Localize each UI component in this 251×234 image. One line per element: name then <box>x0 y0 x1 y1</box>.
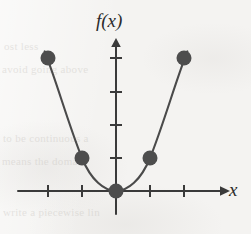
parabola-plot <box>0 0 251 234</box>
data-point-marker <box>143 151 158 166</box>
data-point-marker <box>109 184 124 199</box>
data-point-marker <box>41 51 56 66</box>
data-point-marker <box>177 51 192 66</box>
graph-figure: ost less avoid going above to be continu… <box>0 0 251 234</box>
x-axis-label: x <box>229 179 237 201</box>
y-axis-label: f(x) <box>96 10 122 32</box>
y-axis-arrowhead <box>111 38 121 47</box>
x-axis <box>18 185 230 197</box>
data-point-marker <box>75 151 90 166</box>
